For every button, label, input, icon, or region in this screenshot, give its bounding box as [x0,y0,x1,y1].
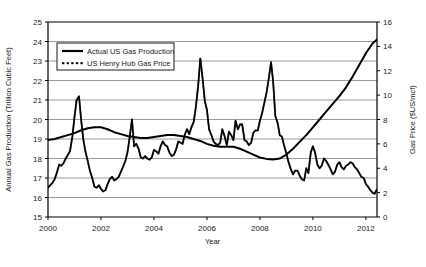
legend-marker-dotted-line [67,62,69,64]
y-axis-right-tick-label: 12 [383,67,392,76]
x-axis-title: Year [205,237,221,246]
chart-figure: 1516171819202122232425024681012141620002… [0,0,426,267]
y-axis-left-tick-label: 15 [33,213,42,222]
y-axis-right-tick-label: 4 [383,164,388,173]
y-axis-right-tick-label: 8 [383,116,388,125]
legend-marker-dotted-line [71,62,73,64]
y-axis-left-tick-label: 22 [33,77,42,86]
y-axis-left-tick-label: 21 [33,96,42,105]
legend-label-production: Actual US Gas Production [87,47,174,56]
x-axis-tick-label: 2012 [357,224,375,233]
y-axis-right-tick-label: 16 [383,18,392,27]
x-axis-tick-label: 2002 [92,224,110,233]
y-axis-left-tick-label: 18 [33,155,42,164]
y-axis-right-tick-label: 14 [383,42,392,51]
legend-label-price: US Henry Hub Gas Price [87,59,170,68]
x-axis-tick-label: 2010 [304,224,322,233]
y-axis-left-tick-label: 24 [33,38,42,47]
x-axis-tick-label: 2000 [39,224,57,233]
x-axis-tick-label: 2008 [251,224,269,233]
legend-marker-dotted-line [62,62,64,64]
y-axis-left-tick-label: 23 [33,57,42,66]
legend-marker-dotted-line [76,62,78,64]
y-axis-left-tick-label: 16 [33,194,42,203]
y-axis-left-tick-label: 25 [33,18,42,27]
y-axis-right-title: Gas Price ($US/mcf) [408,85,417,154]
y-axis-left-tick-label: 17 [33,174,42,183]
y-axis-right-tick-label: 0 [383,213,388,222]
x-axis-tick-label: 2004 [145,224,163,233]
x-axis-tick-label: 2006 [198,224,216,233]
y-axis-left-tick-label: 19 [33,135,42,144]
legend-marker-dotted-line [80,62,82,64]
y-axis-right-tick-label: 6 [383,140,388,149]
y-axis-left-tick-label: 20 [33,116,42,125]
y-axis-right-tick-label: 2 [383,189,388,198]
y-axis-right-tick-label: 10 [383,91,392,100]
gas-production-price-chart: 1516171819202122232425024681012141620002… [0,0,426,267]
y-axis-left-title: Annual Gas Production (Trillion Cubic Fe… [4,47,13,192]
